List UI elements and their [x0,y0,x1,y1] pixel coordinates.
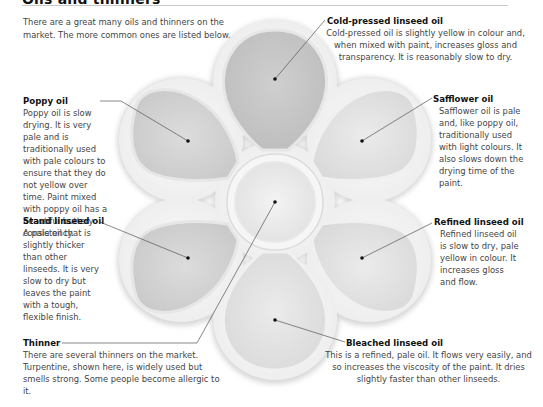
label-title: Thinner [23,337,223,349]
label-thinner: Thinner There are several thinners on th… [23,337,223,397]
label-title: Poppy oil [23,95,109,107]
label-body: Cold-pressed oil is slightly yellow in c… [323,27,528,63]
label-cold-pressed: Cold-pressed linseed oil Cold-pressed oi… [327,15,527,63]
label-title: Refined linseed oil [434,216,538,228]
label-refined: Refined linseed oil Refined linseed oil … [434,216,538,288]
label-body: Refined linseed oil is slow to dry, pale… [434,228,520,288]
label-title: Safflower oil [433,93,533,105]
label-stand: Stand linseed oil A pale oil that is sli… [23,215,105,323]
label-body: Safflower oil is pale and, like poppy oi… [433,105,527,189]
label-title: Stand linseed oil [23,215,105,227]
label-title: Bleached linseed oil [346,337,536,349]
label-body: This is a refined, pale oil. It flows ve… [321,349,536,385]
label-body: A pale oil that is slightly thicker than… [23,227,105,323]
label-bleached: Bleached linseed oil This is a refined, … [346,337,536,385]
label-safflower: Safflower oil Safflower oil is pale and,… [433,93,533,189]
label-title: Cold-pressed linseed oil [327,15,527,27]
label-body: There are several thinners on the market… [23,349,223,397]
